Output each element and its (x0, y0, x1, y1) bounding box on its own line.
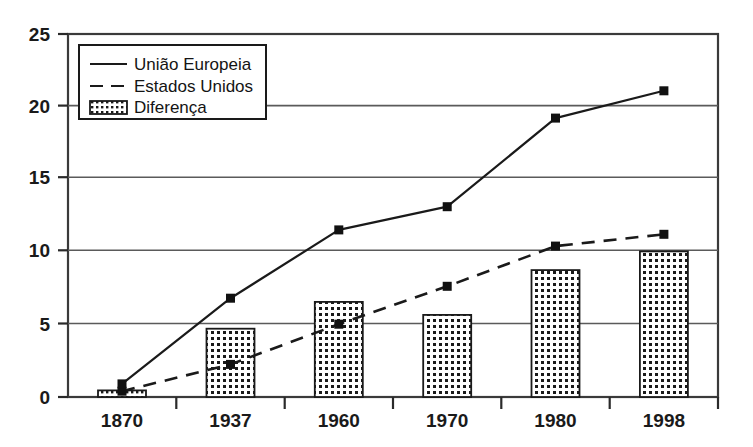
y-tick-label: 0 (39, 387, 50, 408)
x-tick-label: 1960 (318, 410, 360, 431)
data-point-marker (443, 282, 452, 291)
data-point-marker (226, 294, 235, 303)
chart-figure: 25 20 15 10 5 0 (0, 0, 753, 447)
x-tick-label: 1937 (209, 410, 251, 431)
data-point-marker (118, 379, 127, 388)
chart-canvas: 25 20 15 10 5 0 (0, 0, 753, 447)
legend-entry-diferenca: Diferença (90, 98, 207, 117)
legend-label: Diferença (134, 98, 207, 117)
data-point-marker (551, 114, 560, 123)
chart-legend: União Europeia Estados Unidos Diferença (79, 45, 266, 119)
y-tick-label: 20 (29, 96, 50, 117)
y-tick-label: 15 (29, 167, 51, 188)
y-tick-label: 10 (29, 240, 50, 261)
data-point-marker (226, 360, 235, 369)
data-point-marker (659, 230, 668, 239)
x-tick-label: 1980 (534, 410, 576, 431)
data-point-marker (659, 86, 668, 95)
bar-1980 (532, 270, 580, 397)
x-tick-label: 1870 (101, 410, 143, 431)
y-tick-label: 5 (39, 314, 50, 335)
y-tick-label: 25 (29, 24, 51, 45)
bar-1998 (640, 251, 688, 397)
x-tick-label: 1998 (643, 410, 685, 431)
dotted-bar-swatch-icon (90, 101, 127, 114)
data-point-marker (334, 320, 343, 329)
data-point-marker (443, 202, 452, 211)
legend-label: União Europeia (134, 55, 252, 74)
data-point-marker (334, 225, 343, 234)
legend-label: Estados Unidos (134, 77, 253, 96)
x-tick-label: 1970 (426, 410, 468, 431)
data-point-marker (551, 242, 560, 251)
bar-1960 (315, 302, 363, 397)
bar-1970 (423, 315, 471, 397)
